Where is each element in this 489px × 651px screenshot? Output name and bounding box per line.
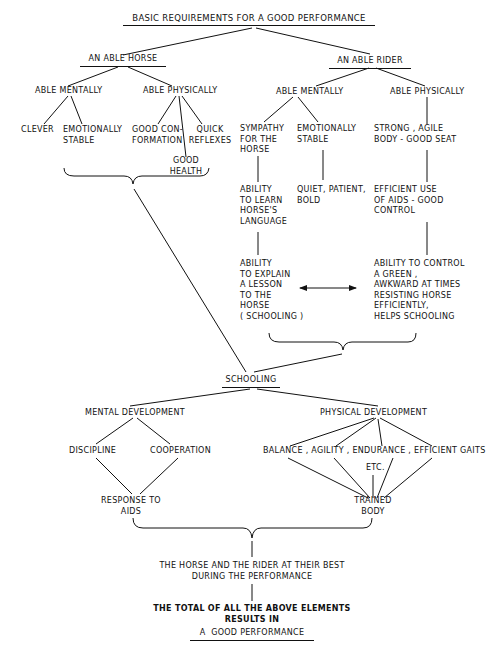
outcome-final: A GOOD PERFORMANCE (190, 628, 314, 641)
horse-clever: CLEVER (21, 125, 54, 136)
horse-quick-reflexes: QUICK REFLEXES (188, 125, 232, 146)
horse-able-physically: ABLE PHYSICALLY (143, 86, 217, 97)
rider-efficient-aids: EFFICIENT USE OF AIDS - GOOD CONTROL (374, 185, 444, 217)
etc-label: ETC. (366, 463, 385, 474)
outcome-best: THE HORSE AND THE RIDER AT THEIR BEST DU… (110, 561, 394, 582)
rider-strong-agile: STRONG , AGILE BODY - GOOD SEAT (374, 124, 456, 145)
horse-able-mentally: ABLE MENTALLY (35, 86, 102, 97)
physical-items: BALANCE , AGILITY , ENDURANCE , EFFICIEN… (263, 446, 486, 457)
rider-able-mentally: ABLE MENTALLY (276, 87, 343, 98)
cooperation: COOPERATION (150, 446, 211, 457)
response-to-aids: RESPONSE TO AIDS (96, 496, 166, 517)
rider-quiet-patient: QUIET, PATIENT, BOLD (297, 185, 366, 206)
outcome-total: THE TOTAL OF ALL THE ABOVE ELEMENTS RESU… (106, 604, 398, 625)
requirements-diagram: BASIC REQUIREMENTS FOR A GOOD PERFORMANC… (0, 0, 489, 651)
rider-sympathy: SYMPATHY FOR THE HORSE (240, 124, 284, 156)
connector-lines (0, 0, 489, 651)
trained-body: TRAINED BODY (346, 496, 400, 517)
discipline: DISCIPLINE (69, 446, 116, 457)
rider-ability-control: ABILITY TO CONTROL A GREEN , AWKWARD AT … (374, 259, 465, 322)
horse-good-conformation: GOOD CON- FORMATION (132, 125, 183, 146)
horse-heading: AN ABLE HORSE (80, 54, 166, 67)
diagram-title: BASIC REQUIREMENTS FOR A GOOD PERFORMANC… (123, 13, 375, 26)
horse-emotionally-stable: EMOTIONALLY STABLE (63, 125, 122, 146)
rider-ability-learn: ABILITY TO LEARN HORSE'S LANGUAGE (240, 185, 287, 227)
mental-development: MENTAL DEVELOPMENT (85, 408, 185, 419)
physical-development: PHYSICAL DEVELOPMENT (320, 408, 427, 419)
rider-heading: AN ABLE RIDER (329, 56, 411, 69)
rider-able-physically: ABLE PHYSICALLY (390, 87, 464, 98)
horse-good-health: GOOD HEALTH (167, 156, 205, 177)
rider-emotionally-stable: EMOTIONALLY STABLE (297, 124, 356, 145)
schooling-heading: SCHOOLING (222, 375, 280, 388)
rider-ability-explain: ABILITY TO EXPLAIN A LESSON TO THE HORSE… (240, 259, 304, 322)
